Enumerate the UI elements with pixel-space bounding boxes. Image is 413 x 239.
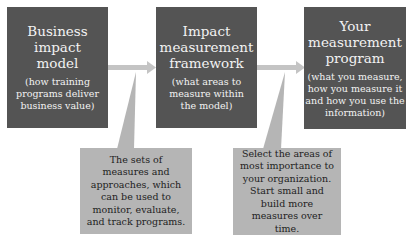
callout-pointer-2 [263, 72, 285, 149]
box-title: Your measurement program [305, 18, 405, 66]
box-title: Business impact model [23, 23, 93, 71]
program-callout: Select the areas of most importance to y… [233, 148, 341, 235]
framework-callout: The sets of measures and approaches, whi… [80, 148, 192, 234]
arrow-icon [257, 61, 305, 74]
box-subtitle: (how training programs deliver business … [12, 76, 104, 112]
impact-measurement-framework-box: Impact measurement framework (what areas… [156, 7, 257, 128]
callout-text: Select the areas of most importance to y… [239, 148, 335, 236]
arrow-icon [108, 61, 156, 74]
box-subtitle: (what you measure, how you measure it an… [305, 71, 405, 119]
box-title: Impact measurement framework [159, 23, 255, 71]
box-subtitle: (what areas to measure within the model) [161, 76, 253, 112]
your-measurement-program-box: Your measurement program (what you measu… [304, 7, 406, 129]
callout-pointer-1 [117, 72, 136, 149]
business-impact-model-box: Business impact model (how training prog… [7, 7, 108, 128]
callout-text: The sets of measures and approaches, whi… [86, 154, 186, 229]
